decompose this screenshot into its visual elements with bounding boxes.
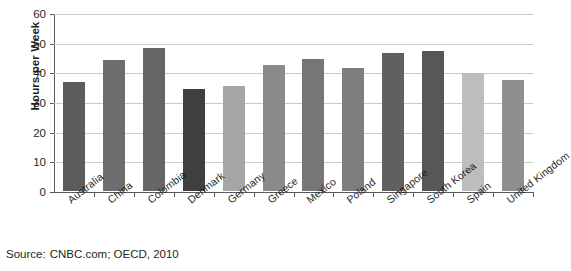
bar-singapore	[382, 53, 404, 191]
y-tick-mark-60	[50, 14, 54, 15]
y-tick-label-0: 0	[40, 186, 46, 198]
source-text: CNBC.com; OECD, 2010	[50, 248, 179, 260]
bar-mexico	[302, 59, 324, 191]
source-note: Source:CNBC.com; OECD, 2010	[6, 248, 179, 260]
y-tick-label-10: 10	[33, 156, 46, 168]
bar-germany	[223, 86, 245, 191]
y-tick-mark-0	[50, 192, 54, 193]
y-tick-label-60: 60	[33, 8, 46, 20]
bar-colombia	[143, 48, 165, 191]
y-tick-label-40: 40	[33, 67, 46, 79]
gridline-50	[54, 44, 533, 45]
bar-australia	[63, 82, 85, 191]
y-tick-mark-50	[50, 44, 54, 45]
bar-greece	[263, 65, 285, 191]
y-tick-label-20: 20	[33, 127, 46, 139]
bar-poland	[342, 68, 364, 191]
y-tick-label-30: 30	[33, 97, 46, 109]
gridline-60	[54, 14, 533, 15]
source-label: Source:	[6, 248, 46, 260]
bar-united-kingdom	[502, 80, 524, 191]
y-tick-mark-40	[50, 73, 54, 74]
y-tick-mark-30	[50, 103, 54, 104]
bar-china	[103, 60, 125, 191]
y-tick-label-50: 50	[33, 38, 46, 50]
y-tick-mark-10	[50, 162, 54, 163]
x-axis-labels: AustraliaChinaColombiaDenmarkGermanyGree…	[54, 196, 543, 254]
y-tick-mark-20	[50, 133, 54, 134]
